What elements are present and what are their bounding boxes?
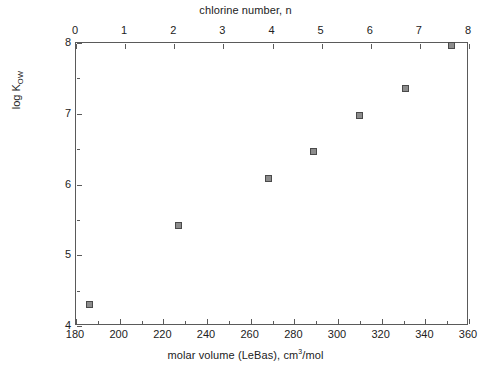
data-point <box>402 85 409 92</box>
x-axis-tick-label: 300 <box>328 328 346 340</box>
x-axis-minor-tick <box>360 321 361 324</box>
x-axis-tick-label: 320 <box>371 328 389 340</box>
x-axis-minor-tick <box>142 321 143 324</box>
y-axis-tick-label: 8 <box>59 36 71 48</box>
data-point <box>175 222 182 229</box>
x-axis-minor-tick <box>98 321 99 324</box>
y-axis-minor-tick <box>77 78 80 79</box>
y-axis-minor-tick <box>77 149 80 150</box>
data-point <box>310 148 317 155</box>
top-axis-tick <box>371 44 372 49</box>
y-axis-tick <box>77 114 82 115</box>
y-axis-tick <box>77 326 82 327</box>
x-axis-tick-label: 260 <box>240 328 258 340</box>
x-axis-minor-tick <box>185 321 186 324</box>
top-axis-tick-label: 2 <box>170 24 176 36</box>
y-axis-title: log KOW <box>10 30 25 150</box>
data-point <box>86 301 93 308</box>
x-axis-tick <box>76 319 77 324</box>
x-axis-minor-tick <box>404 321 405 324</box>
data-point <box>356 112 363 119</box>
x-axis-tick <box>207 319 208 324</box>
data-point <box>265 175 272 182</box>
x-axis-minor-tick <box>316 321 317 324</box>
top-axis-tick <box>174 44 175 49</box>
top-axis-tick <box>420 44 421 49</box>
x-axis-tick <box>425 319 426 324</box>
top-axis-tick <box>76 44 77 49</box>
y-axis-tick <box>77 43 82 44</box>
x-axis-tick-label: 280 <box>284 328 302 340</box>
x-axis-tick <box>338 319 339 324</box>
y-axis-tick-label: 5 <box>59 248 71 260</box>
chart-figure: chlorine number, n log KOW molar volume … <box>0 0 491 380</box>
x-axis-tick <box>382 319 383 324</box>
top-axis-tick-label: 4 <box>268 24 274 36</box>
x-axis-title: molar volume (LeBas), cm3/mol <box>0 348 491 361</box>
top-axis-tick-label: 1 <box>121 24 127 36</box>
x-axis-tick <box>120 319 121 324</box>
x-axis-minor-tick <box>273 321 274 324</box>
y-axis-tick-label: 6 <box>59 178 71 190</box>
x-axis-minor-tick <box>229 321 230 324</box>
y-axis-title-text: log K <box>10 84 22 109</box>
x-axis-tick <box>163 319 164 324</box>
x-axis-tick <box>469 319 470 324</box>
y-axis-tick <box>77 185 82 186</box>
top-axis-tick <box>223 44 224 49</box>
top-axis-tick-label: 8 <box>465 24 471 36</box>
top-axis-title: chlorine number, n <box>0 4 491 16</box>
top-axis-tick-label: 3 <box>219 24 225 36</box>
plot-area <box>75 42 468 325</box>
x-axis-tick-label: 240 <box>197 328 215 340</box>
top-axis-tick <box>469 44 470 49</box>
top-axis-tick <box>322 44 323 49</box>
top-axis-tick-label: 5 <box>318 24 324 36</box>
x-axis-tick <box>251 319 252 324</box>
top-axis-tick <box>125 44 126 49</box>
x-axis-tick-label: 340 <box>415 328 433 340</box>
y-axis-minor-tick <box>77 220 80 221</box>
x-axis-tick-label: 220 <box>153 328 171 340</box>
y-axis-tick-label: 4 <box>59 319 71 331</box>
x-axis-tick-label: 200 <box>109 328 127 340</box>
y-axis-tick <box>77 255 82 256</box>
top-axis-tick-label: 0 <box>72 24 78 36</box>
x-axis-tick <box>294 319 295 324</box>
data-point <box>448 42 455 49</box>
y-axis-title-subscript: OW <box>16 71 25 85</box>
y-axis-tick-label: 7 <box>59 107 71 119</box>
top-axis-tick-label: 6 <box>367 24 373 36</box>
top-axis-tick <box>273 44 274 49</box>
x-axis-tick-label: 360 <box>459 328 477 340</box>
y-axis-minor-tick <box>77 291 80 292</box>
x-axis-minor-tick <box>447 321 448 324</box>
top-axis-tick-label: 7 <box>416 24 422 36</box>
